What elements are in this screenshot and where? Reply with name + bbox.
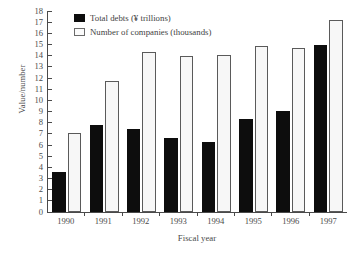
bar-group xyxy=(272,11,309,212)
legend-label-total-debts: Total debts (¥ trillions) xyxy=(90,13,171,23)
bar-group xyxy=(310,11,347,212)
y-axis-tick-label: 18 xyxy=(34,6,43,16)
x-axis-tick-label: 1991 xyxy=(85,216,123,226)
y-axis-tick-label: 17 xyxy=(34,17,43,27)
bar-number-of-companies xyxy=(142,52,156,212)
y-axis-title: Value/number xyxy=(17,29,27,149)
bar-total-debts xyxy=(239,119,253,212)
x-axis-tick-label: 1997 xyxy=(310,216,348,226)
bar-number-of-companies xyxy=(255,46,269,212)
legend-label-number-of-companies: Number of companies (thousands) xyxy=(90,27,211,37)
y-axis-tick-label: 7 xyxy=(39,128,43,138)
y-axis-tick-label: 2 xyxy=(39,184,43,194)
y-axis-tick-label: 14 xyxy=(34,50,43,60)
legend-item-total-debts: Total debts (¥ trillions) xyxy=(74,11,211,25)
x-axis-tick-label: 1994 xyxy=(197,216,235,226)
y-axis-tick-label: 3 xyxy=(39,173,43,183)
bar-number-of-companies xyxy=(180,56,194,212)
y-axis-tick-label: 4 xyxy=(39,162,43,172)
bar-total-debts xyxy=(314,45,328,213)
bar-group xyxy=(123,11,160,212)
y-axis-tick-label: 13 xyxy=(34,61,43,71)
bar-chart: Value/number 012345678910111213141516171… xyxy=(0,0,354,260)
bar-group xyxy=(198,11,235,212)
bar-total-debts xyxy=(164,138,178,212)
bar-number-of-companies xyxy=(105,81,119,212)
x-axis-tick-label: 1996 xyxy=(272,216,310,226)
legend-swatch-icon-total-debts xyxy=(74,14,85,23)
bar-group xyxy=(85,11,122,212)
y-axis-tick-label: 8 xyxy=(39,117,43,127)
y-axis-tick-label: 1 xyxy=(39,195,43,205)
x-axis-tick-label: 1995 xyxy=(235,216,273,226)
bar-number-of-companies xyxy=(292,48,306,212)
y-axis-tick-label: 5 xyxy=(39,151,43,161)
y-axis-tick-label: 12 xyxy=(34,73,43,83)
x-axis-tick-labels: 19901991199219931994199519961997 xyxy=(47,216,347,226)
y-axis-tick-label: 16 xyxy=(34,28,43,38)
bar-total-debts xyxy=(276,111,290,212)
y-axis-tick-label: 15 xyxy=(34,39,43,49)
legend-item-number-of-companies: Number of companies (thousands) xyxy=(74,25,211,39)
x-axis-tick-label: 1990 xyxy=(47,216,85,226)
y-axis-tick-label: 0 xyxy=(39,207,43,217)
y-axis-tick-label: 9 xyxy=(39,106,43,116)
bar-group xyxy=(48,11,85,212)
bar-group xyxy=(235,11,272,212)
bar-total-debts xyxy=(202,142,216,212)
x-axis-tick-label: 1993 xyxy=(160,216,198,226)
legend-swatch-icon-number-of-companies xyxy=(74,28,85,37)
y-axis-tick-label: 10 xyxy=(34,95,43,105)
x-axis-title: Fiscal year xyxy=(47,233,347,243)
bar-number-of-companies xyxy=(68,133,82,212)
bar-total-debts xyxy=(90,125,104,212)
bar-groups xyxy=(48,11,347,212)
bar-total-debts xyxy=(127,129,141,212)
chart-legend: Total debts (¥ trillions) Number of comp… xyxy=(74,11,211,39)
x-axis-tick-label: 1992 xyxy=(122,216,160,226)
plot-area: 0123456789101112131415161718 xyxy=(47,11,347,213)
y-axis-tick-label: 11 xyxy=(35,84,43,94)
bar-total-debts xyxy=(52,172,66,212)
bar-number-of-companies xyxy=(329,20,343,212)
y-axis-tick-label: 6 xyxy=(39,140,43,150)
bar-group xyxy=(160,11,197,212)
bar-number-of-companies xyxy=(217,55,231,212)
